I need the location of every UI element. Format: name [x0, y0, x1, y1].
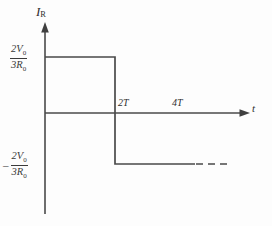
y-axis-arrowhead: [41, 22, 49, 33]
numerator-subscript: 0: [23, 49, 27, 57]
x-tick-label-2t: 2T: [118, 98, 129, 108]
numerator-subscript: 0: [23, 156, 27, 164]
fraction-denominator: 3R0: [11, 166, 28, 180]
y-tick-label-positive: 2V0 3R0: [10, 43, 27, 74]
numerator-text: 2V: [11, 43, 23, 54]
denominator-subscript: 0: [23, 66, 27, 74]
fraction-positive: 2V0 3R0: [10, 43, 27, 74]
minus-sign: –: [3, 159, 9, 171]
waveform-solid: [45, 57, 195, 164]
y-axis-label: IR: [36, 5, 46, 19]
x-tick-label-4t: 4T: [172, 98, 183, 108]
chart-canvas: [0, 0, 272, 226]
y-tick-label-negative: – 2V0 3R0: [3, 150, 28, 181]
fraction-negative: 2V0 3R0: [11, 150, 28, 181]
denominator-subscript: 0: [23, 173, 27, 181]
denominator-text: 3R: [12, 166, 24, 177]
fraction-numerator: 2V0: [11, 150, 28, 164]
current-vs-time-chart: IR t 2T 4T 2V0 3R0 – 2V0 3R0: [0, 0, 272, 226]
fraction-numerator: 2V0: [10, 43, 27, 57]
fraction-denominator: 3R0: [10, 59, 27, 73]
x-axis-arrowhead: [240, 109, 251, 117]
numerator-text: 2V: [12, 150, 24, 161]
x-axis-label: t: [252, 103, 255, 114]
denominator-text: 3R: [11, 59, 23, 70]
y-axis-subscript: R: [40, 9, 46, 19]
